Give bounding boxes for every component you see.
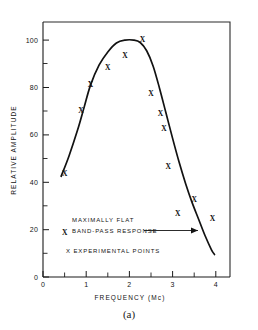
legend-note: X EXPERIMENTAL POINTS — [66, 248, 160, 254]
y-tick-label: 60 — [30, 131, 38, 138]
experimental-points-group: XXXXXXXXXXXXXX — [62, 35, 216, 237]
figure-container: 100 80 60 40 20 0 0 1 2 3 4 FR — [0, 0, 258, 330]
x-axis-title: FREQUENCY (Mc) — [95, 294, 166, 302]
experimental-point: X — [210, 214, 216, 223]
y-tick-label: 100 — [26, 37, 38, 44]
experimental-point: X — [166, 162, 172, 171]
curve-annotation: MAXIMALLY FLAT BAND-PASS RESPONSE — [72, 217, 198, 234]
chart-canvas: 100 80 60 40 20 0 0 1 2 3 4 FR — [0, 0, 258, 330]
figure-caption: (a) — [0, 308, 258, 320]
x-axis-ticks — [43, 271, 216, 277]
x-tick-label: 1 — [84, 281, 88, 288]
experimental-point: X — [191, 195, 197, 204]
y-axis-title: RELATIVE AMPLITUDE — [10, 105, 17, 194]
x-tick-label: 4 — [214, 281, 218, 288]
experimental-point: X — [158, 109, 164, 118]
y-tick-label: 80 — [30, 84, 38, 91]
experimental-point: X — [62, 169, 68, 178]
x-tick-label: 3 — [171, 281, 175, 288]
annotation-line-1: MAXIMALLY FLAT — [72, 217, 134, 223]
experimental-point: X — [175, 209, 181, 218]
experimental-point: X — [140, 35, 146, 44]
y-axis-ticks — [43, 40, 49, 277]
arrow-head-icon — [191, 228, 198, 234]
y-tick-label: 20 — [30, 226, 38, 233]
experimental-point: X — [122, 51, 128, 60]
x-axis-tick-labels: 0 1 2 3 4 — [41, 281, 218, 288]
x-tick-label: 0 — [41, 281, 45, 288]
experimental-point: X — [148, 89, 154, 98]
y-tick-label: 40 — [30, 179, 38, 186]
annotation-line-2: BAND-PASS RESPONSE — [72, 228, 157, 234]
y-tick-label: 0 — [34, 274, 38, 281]
experimental-point: X — [78, 106, 84, 115]
experimental-point: X — [62, 228, 68, 237]
y-axis-tick-labels: 100 80 60 40 20 0 — [26, 37, 38, 281]
experimental-point: X — [105, 63, 111, 72]
x-tick-label: 2 — [127, 281, 131, 288]
experimental-point: X — [88, 80, 94, 89]
experimental-point: X — [161, 124, 167, 133]
